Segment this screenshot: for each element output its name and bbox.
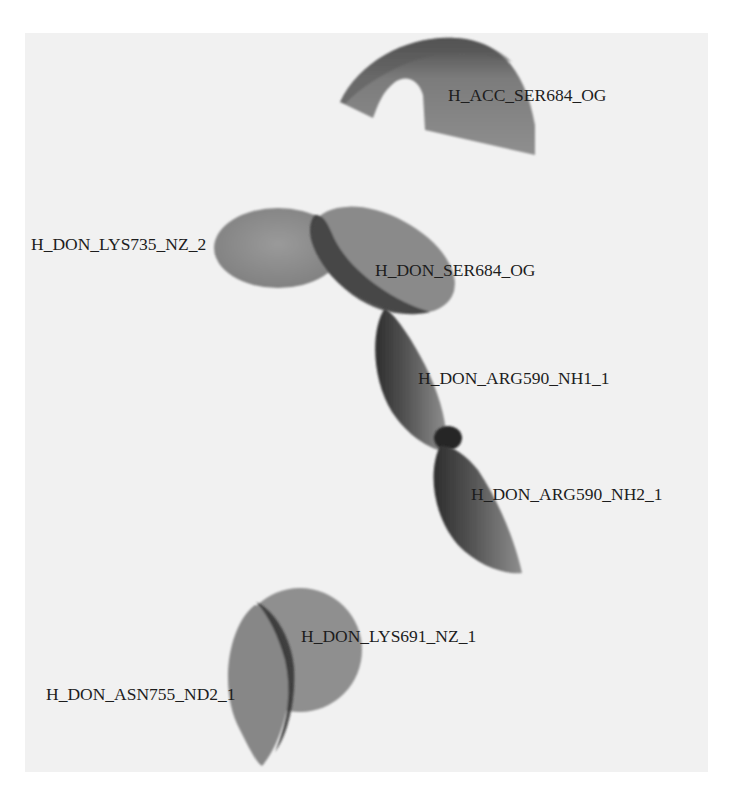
feature-label-h-don-ser684-og: H_DON_SER684_OG <box>375 262 535 280</box>
feature-label-h-acc-ser684-og: H_ACC_SER684_OG <box>448 87 607 105</box>
feature-overlap-node <box>434 426 462 450</box>
feature-label-h-don-asn755-nd2-1: H_DON_ASN755_ND2_1 <box>46 686 236 704</box>
feature-h-don-arg590-nh2-1-shape <box>434 446 522 573</box>
feature-label-h-don-lys691-nz-1: H_DON_LYS691_NZ_1 <box>301 628 476 646</box>
feature-label-h-don-lys735-nz-2: H_DON_LYS735_NZ_2 <box>31 236 206 254</box>
feature-label-h-don-arg590-nh1-1: H_DON_ARG590_NH1_1 <box>418 370 610 388</box>
feature-label-h-don-arg590-nh2-1: H_DON_ARG590_NH2_1 <box>471 486 663 504</box>
feature-visualization <box>0 0 738 797</box>
